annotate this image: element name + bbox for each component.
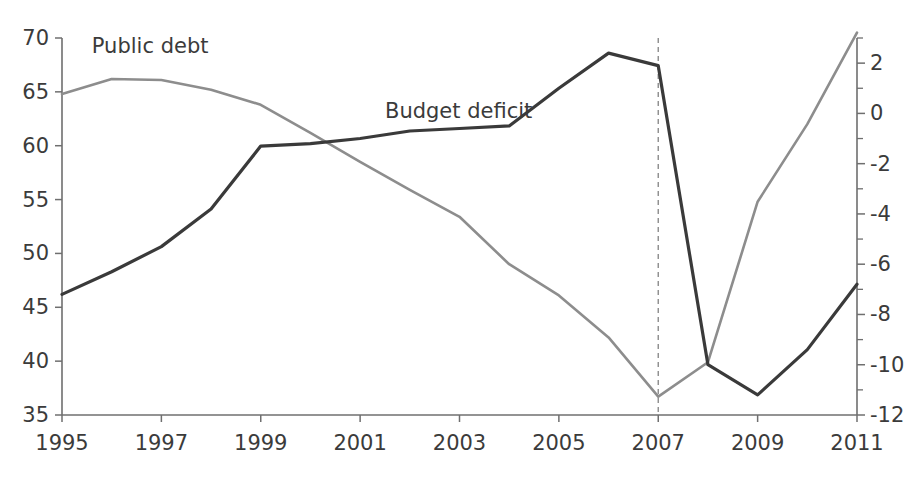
right-axis-tick-labels: 20-2-4-6-8-10-12 <box>870 51 904 427</box>
dual-axis-line-chart: 7065605550454035 20-2-4-6-8-10-12 199519… <box>0 0 916 482</box>
left-tick-label: 35 <box>22 403 49 427</box>
x-tick-label: 1995 <box>35 431 88 455</box>
right-tick-label: -10 <box>870 353 904 377</box>
left-axis-tick-labels: 7065605550454035 <box>22 26 49 427</box>
x-tick-label: 2007 <box>632 431 685 455</box>
x-axis-ticks <box>62 415 857 422</box>
x-tick-label: 2011 <box>830 431 883 455</box>
x-axis-tick-labels: 199519971999200120032005200720092011 <box>35 431 883 455</box>
right-tick-label: -8 <box>870 302 891 326</box>
series-lines <box>62 33 857 397</box>
right-tick-label: 0 <box>870 101 883 125</box>
left-tick-label: 65 <box>22 80 49 104</box>
series-line-public-debt <box>62 33 857 397</box>
left-tick-label: 40 <box>22 349 49 373</box>
series-label-public-debt: Public debt <box>92 34 209 58</box>
x-tick-label: 2003 <box>433 431 486 455</box>
left-tick-label: 55 <box>22 188 49 212</box>
left-tick-label: 70 <box>22 26 49 50</box>
right-tick-label: -6 <box>870 252 891 276</box>
x-tick-label: 2009 <box>731 431 784 455</box>
chart-container: 7065605550454035 20-2-4-6-8-10-12 199519… <box>0 0 916 482</box>
right-tick-label: -4 <box>870 202 891 226</box>
series-label-budget-deficit: Budget deficit <box>385 99 532 123</box>
right-tick-label: 2 <box>870 51 883 75</box>
left-tick-label: 45 <box>22 295 49 319</box>
x-tick-label: 2005 <box>532 431 585 455</box>
left-tick-label: 50 <box>22 241 49 265</box>
left-tick-label: 60 <box>22 134 49 158</box>
right-tick-label: -2 <box>870 152 891 176</box>
right-tick-label: -12 <box>870 403 904 427</box>
x-tick-label: 1999 <box>234 431 287 455</box>
x-tick-label: 1997 <box>135 431 188 455</box>
x-tick-label: 2001 <box>333 431 386 455</box>
